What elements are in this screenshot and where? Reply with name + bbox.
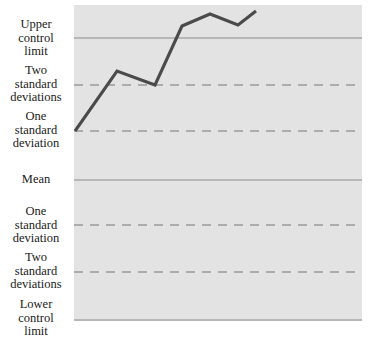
- plot-area: [74, 5, 362, 321]
- plot-svg: [74, 5, 362, 321]
- axis-label-two-standard-deviations-lower: Two standard deviations: [0, 251, 72, 292]
- control-chart-figure: Upper control limit Two standard deviati…: [0, 0, 374, 358]
- axis-label-upper-control-limit: Upper control limit: [0, 18, 72, 59]
- axis-label-lower-control-limit: Lower control limit: [0, 298, 72, 339]
- axis-label-mean: Mean: [0, 173, 72, 187]
- axis-label-two-standard-deviations-upper: Two standard deviations: [0, 64, 72, 105]
- data-series-line: [75, 11, 256, 131]
- axis-label-one-standard-deviation-upper: One standard deviation: [0, 110, 72, 151]
- y-axis-label-column: Upper control limit Two standard deviati…: [0, 0, 72, 358]
- axis-label-one-standard-deviation-lower: One standard deviation: [0, 205, 72, 246]
